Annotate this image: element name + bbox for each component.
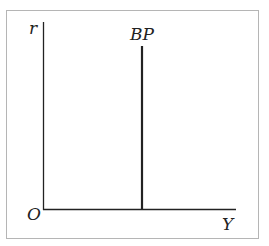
x-axis-label: Y bbox=[222, 214, 235, 234]
origin-label: O bbox=[27, 204, 41, 224]
y-axis-label: r bbox=[29, 18, 38, 38]
bp-curve-label: BP bbox=[129, 24, 154, 44]
diagram-canvas: r BP O Y bbox=[0, 0, 269, 246]
